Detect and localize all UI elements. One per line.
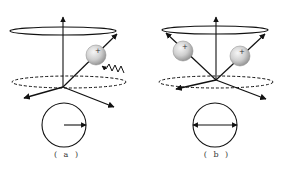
plus-sign-icon: + <box>95 47 101 55</box>
panel-label-a: ( a ) <box>54 150 80 159</box>
plus-sign-icon: + <box>239 48 245 56</box>
photon-wave-icon <box>102 64 124 73</box>
x-axis-arrow <box>24 87 63 98</box>
y-axis-arrow <box>216 80 266 99</box>
figure-canvas: + ++ <box>0 0 282 172</box>
panel-b-precession-diagram: ++ <box>159 17 273 147</box>
transverse-plane-dashed-ellipse <box>12 76 126 88</box>
panel-a-precession-diagram: + <box>10 17 126 147</box>
precession-cone-ellipse <box>162 26 268 34</box>
plus-sign-icon: + <box>182 43 188 51</box>
panel-label-b: ( b ) <box>204 150 230 159</box>
